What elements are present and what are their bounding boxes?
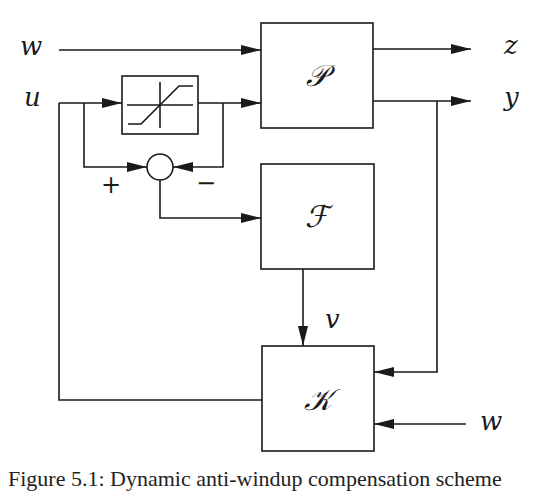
- signal-z-output-label: z: [504, 32, 518, 58]
- signal-y-output-label: y: [504, 84, 519, 110]
- controller-label: 𝒦: [304, 385, 332, 415]
- y-to-controller-line: [374, 101, 437, 372]
- controller-output-line: [59, 103, 262, 400]
- summing-junction-circle: [147, 154, 173, 180]
- figure-caption: Figure 5.1: Dynamic anti-windup compensa…: [8, 466, 502, 492]
- plant-label: 𝒫: [306, 61, 328, 91]
- signal-u-input-label: u: [24, 84, 41, 110]
- signal-w-controller-label: w: [480, 408, 502, 434]
- filter-label: ℱ: [305, 202, 329, 232]
- signal-v-label: v: [325, 306, 340, 332]
- plus-sign: +: [101, 173, 121, 197]
- plus-branch-line: [84, 103, 147, 167]
- minus-sign: −: [196, 171, 216, 195]
- saturation-icon: [127, 82, 193, 128]
- signal-w-input-label: w: [20, 33, 42, 59]
